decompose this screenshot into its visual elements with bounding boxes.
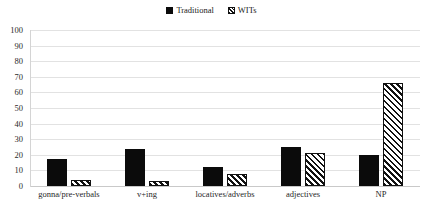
y-tick-label-40: 40 xyxy=(15,119,24,128)
bar xyxy=(227,174,247,186)
x-tick-label: gonna/pre-verbals xyxy=(30,190,108,210)
plot-area: 1009080706050403020100 gonna/pre-verbals… xyxy=(0,0,423,220)
bar-group xyxy=(30,30,108,186)
bar-group xyxy=(342,30,420,186)
bar-group xyxy=(264,30,342,186)
y-tick-label-90: 90 xyxy=(15,41,24,50)
y-tick-label-100: 100 xyxy=(10,26,23,35)
y-tick-label-10: 10 xyxy=(15,166,24,175)
bar xyxy=(305,153,325,186)
y-tick-label-60: 60 xyxy=(15,88,24,97)
bar xyxy=(281,147,301,186)
bar xyxy=(125,149,145,186)
x-axis: gonna/pre-verbalsv+inglocatives/adverbsa… xyxy=(30,190,420,210)
bar xyxy=(149,181,169,186)
y-tick-label-0: 0 xyxy=(19,182,23,191)
y-tick-label-50: 50 xyxy=(15,104,24,113)
y-tick-label-30: 30 xyxy=(15,135,24,144)
bar-group xyxy=(186,30,264,186)
y-tick-label-70: 70 xyxy=(15,73,24,82)
bar xyxy=(47,159,67,186)
x-tick-label: v+ing xyxy=(108,190,186,210)
bar xyxy=(359,155,379,186)
y-axis: 1009080706050403020100 xyxy=(0,30,26,186)
bar xyxy=(71,180,91,186)
x-tick-label: adjectives xyxy=(264,190,342,210)
y-tick-label-80: 80 xyxy=(15,57,24,66)
bar-chart: Traditional WITs 1009080706050403020100 … xyxy=(0,0,423,220)
x-tick-label: NP xyxy=(342,190,420,210)
gridline-0 xyxy=(30,186,420,187)
x-tick-label: locatives/adverbs xyxy=(186,190,264,210)
bar-group xyxy=(108,30,186,186)
bar xyxy=(383,83,403,186)
y-tick-label-20: 20 xyxy=(15,151,24,160)
bars-layer xyxy=(30,30,420,186)
bar xyxy=(203,167,223,186)
